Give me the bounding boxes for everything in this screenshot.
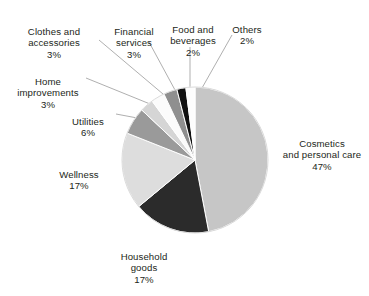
slice-label-home-name: Home improvements: [17, 76, 78, 99]
slice-label-wellness-name: Wellness: [59, 169, 99, 180]
slice-label-cosmetics: Cosmetics and personal care 47%: [276, 126, 368, 184]
slice-label-household-pct: 17%: [106, 274, 182, 286]
slice-label-cosmetics-pct: 47%: [276, 161, 368, 173]
slice-label-others-name: Others: [232, 24, 261, 35]
leader-line-home: [86, 78, 155, 106]
pie-chart-figure: Clothes and accessories 3% Financial ser…: [0, 0, 369, 296]
slice-label-cosmetics-name: Cosmetics and personal care: [283, 138, 361, 161]
slice-label-wellness-pct: 17%: [48, 180, 110, 192]
pie-slice: [195, 87, 268, 232]
slice-label-financial-pct: 3%: [103, 49, 165, 61]
slice-label-clothes-pct: 3%: [6, 49, 102, 61]
slice-label-household-name: Household goods: [121, 251, 168, 274]
slice-label-others-pct: 2%: [222, 35, 272, 47]
slice-label-household: Household goods 17%: [106, 239, 182, 296]
slice-label-clothes-name: Clothes and accessories: [28, 26, 80, 49]
slice-label-food-name: Food and beverages: [170, 24, 216, 47]
slice-label-food-pct: 2%: [163, 47, 223, 59]
slice-label-utilities: Utilities 6%: [61, 104, 115, 150]
slice-label-financial: Financial services 3%: [103, 14, 165, 72]
slice-label-others: Others 2%: [222, 12, 272, 58]
slice-label-utilities-pct: 6%: [61, 127, 115, 139]
slice-label-wellness: Wellness 17%: [48, 157, 110, 203]
pie-slice-group: [122, 87, 268, 233]
slice-label-utilities-name: Utilities: [72, 116, 104, 127]
slice-label-financial-name: Financial services: [114, 26, 153, 49]
slice-label-food: Food and beverages 2%: [163, 12, 223, 70]
